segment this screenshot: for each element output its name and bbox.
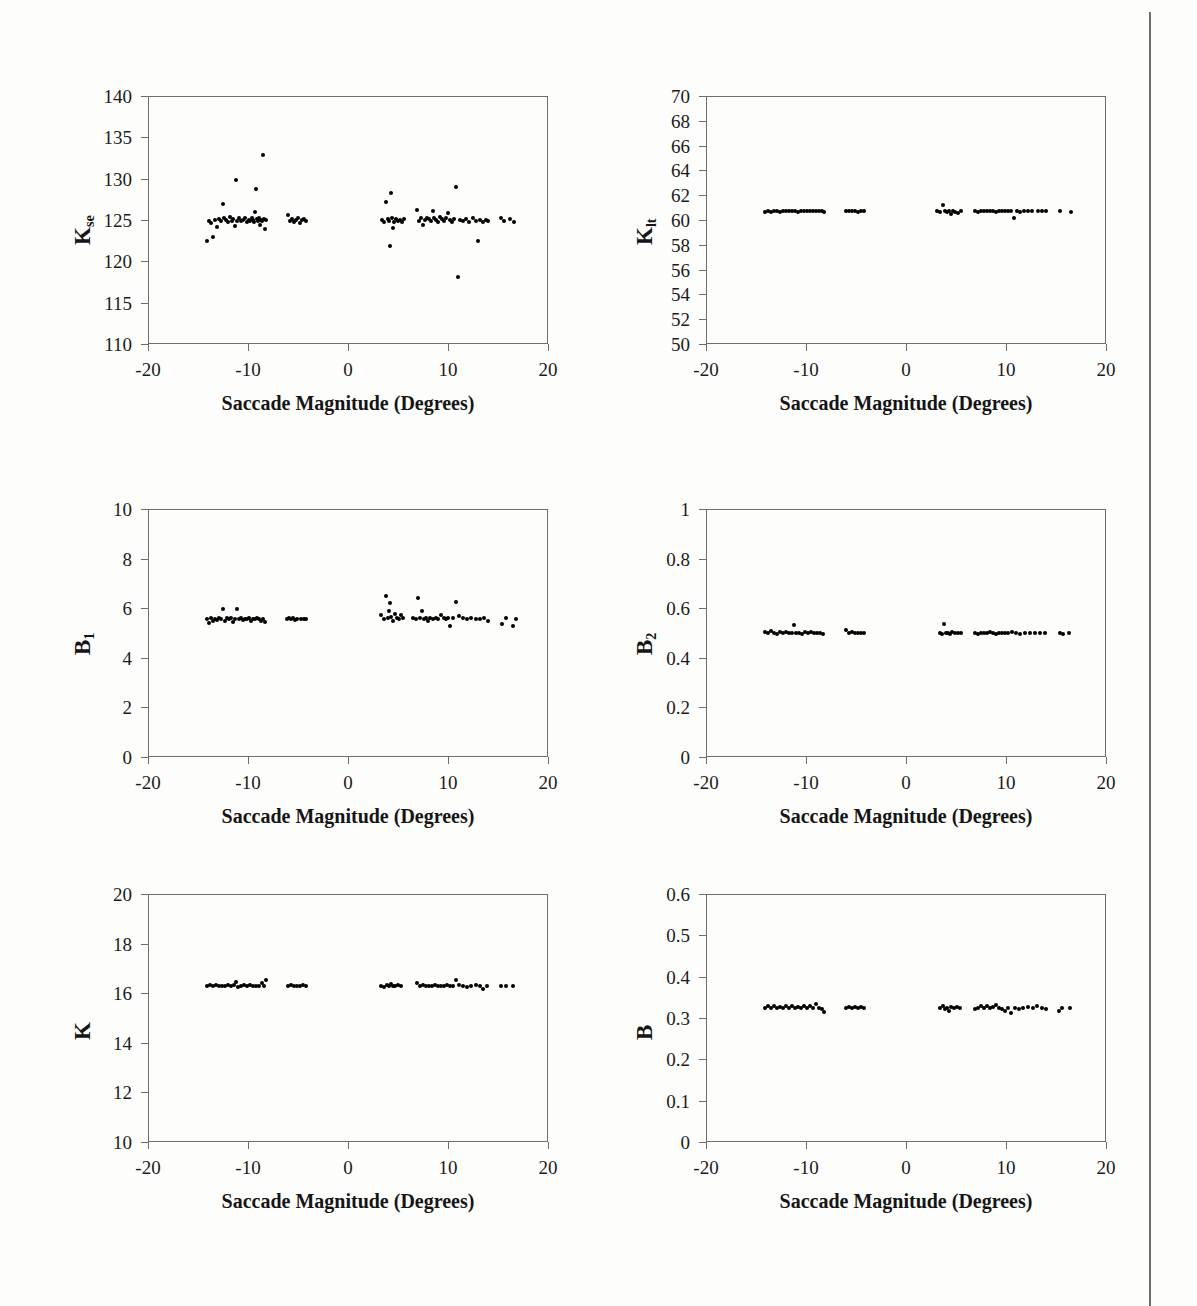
x-tick-label: -10 [208, 773, 288, 792]
y-axis-title-symbol: B [632, 640, 657, 655]
x-tick-mark [906, 344, 907, 351]
x-tick-mark [1106, 344, 1107, 351]
y-tick-label: 52 [626, 310, 690, 329]
y-tick-label: 0.6 [626, 599, 690, 618]
y-tick-label: 0.2 [626, 1050, 690, 1069]
x-tick-label: 10 [408, 773, 488, 792]
x-tick-label: 10 [408, 360, 488, 379]
data-point [485, 984, 489, 988]
x-tick-mark [148, 757, 149, 764]
data-point [486, 219, 490, 223]
y-tick-label: 18 [68, 935, 132, 954]
data-point [862, 631, 866, 635]
y-tick-label: 0.2 [626, 698, 690, 717]
data-point [942, 622, 946, 626]
y-tick-label: 56 [626, 261, 690, 280]
data-point [234, 980, 238, 984]
y-tick-mark [141, 96, 148, 97]
y-axis-title-subscript: lt [643, 218, 659, 227]
x-tick-label: 20 [1066, 360, 1146, 379]
y-tick-mark [141, 559, 148, 560]
data-point [391, 619, 395, 623]
x-tick-label: 20 [508, 360, 588, 379]
data-point [1069, 210, 1073, 214]
x-tick-label: 0 [866, 360, 946, 379]
data-point [486, 619, 490, 623]
data-point [258, 223, 262, 227]
plot-frame [706, 894, 1106, 1142]
data-point [947, 1009, 951, 1013]
x-tick-label: -20 [108, 360, 188, 379]
data-point [822, 210, 826, 214]
plot-frame [148, 509, 548, 757]
y-tick-label: 110 [68, 335, 132, 354]
data-point [1067, 631, 1071, 635]
x-tick-mark [548, 344, 549, 351]
y-tick-label: 0.1 [626, 1092, 690, 1111]
data-point [512, 220, 516, 224]
x-tick-mark [706, 344, 707, 351]
x-tick-label: -10 [208, 1158, 288, 1177]
y-axis-title-subscript: se [81, 215, 97, 227]
data-point [1043, 631, 1047, 635]
x-tick-mark [248, 757, 249, 764]
y-axis-title-symbol: K [70, 227, 95, 245]
data-point [1018, 632, 1022, 636]
x-axis-title: Saccade Magnitude (Degrees) [706, 805, 1106, 828]
data-point [387, 609, 391, 613]
x-tick-label: 10 [966, 360, 1046, 379]
x-tick-label: 20 [508, 773, 588, 792]
y-tick-label: 0 [626, 748, 690, 767]
data-point [264, 218, 268, 222]
y-tick-mark [699, 270, 706, 271]
data-point [811, 1006, 815, 1010]
y-tick-mark [699, 344, 706, 345]
data-point [262, 984, 266, 988]
x-axis-title: Saccade Magnitude (Degrees) [148, 392, 548, 415]
y-tick-mark [141, 707, 148, 708]
x-tick-label: -20 [666, 1158, 746, 1177]
x-tick-label: 20 [1066, 773, 1146, 792]
x-tick-mark [148, 1142, 149, 1149]
y-tick-mark [141, 757, 148, 758]
y-tick-mark [699, 935, 706, 936]
x-tick-label: -20 [108, 1158, 188, 1177]
data-point [420, 609, 424, 613]
data-point [448, 624, 452, 628]
y-tick-label: 0.8 [626, 550, 690, 569]
data-point [1026, 1005, 1030, 1009]
data-point [286, 213, 290, 217]
data-point [446, 211, 450, 215]
data-point [384, 594, 388, 598]
y-tick-label: 50 [626, 335, 690, 354]
y-tick-label: 64 [626, 161, 690, 180]
y-axis-title-symbol: K [70, 1022, 95, 1040]
x-tick-mark [706, 1142, 707, 1149]
y-tick-mark [141, 944, 148, 945]
data-point [382, 220, 386, 224]
y-tick-label: 6 [68, 599, 132, 618]
data-point [446, 616, 450, 620]
y-tick-mark [699, 894, 706, 895]
y-tick-mark [699, 121, 706, 122]
data-point [511, 624, 515, 628]
y-tick-label: 0.6 [626, 885, 690, 904]
y-tick-mark [141, 993, 148, 994]
plot-frame [148, 894, 548, 1142]
data-point [792, 623, 796, 627]
y-axis-title: B1 [70, 633, 96, 655]
y-tick-mark [141, 303, 148, 304]
data-point [511, 984, 515, 988]
y-axis-title: B [632, 1025, 658, 1040]
y-tick-mark [699, 707, 706, 708]
x-axis-title: Saccade Magnitude (Degrees) [148, 805, 548, 828]
data-point [862, 1006, 866, 1010]
data-point [261, 153, 265, 157]
plot-frame [706, 96, 1106, 344]
x-tick-mark [906, 1142, 907, 1149]
data-point [938, 210, 942, 214]
data-point [1028, 631, 1032, 635]
y-tick-label: 66 [626, 137, 690, 156]
data-point [399, 984, 403, 988]
y-tick-mark [699, 195, 706, 196]
